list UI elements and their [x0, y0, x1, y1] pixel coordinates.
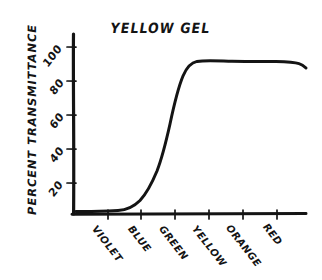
x-axis-line [72, 214, 306, 215]
chart-title: YELLOW GEL [109, 20, 211, 37]
y-axis-title: PERCENT TRANSMITTANCE [25, 34, 39, 216]
chart-page: YELLOW GEL PERCENT TRANSMITTANCE 100 80 … [0, 0, 322, 280]
transmittance-curve [76, 61, 306, 212]
